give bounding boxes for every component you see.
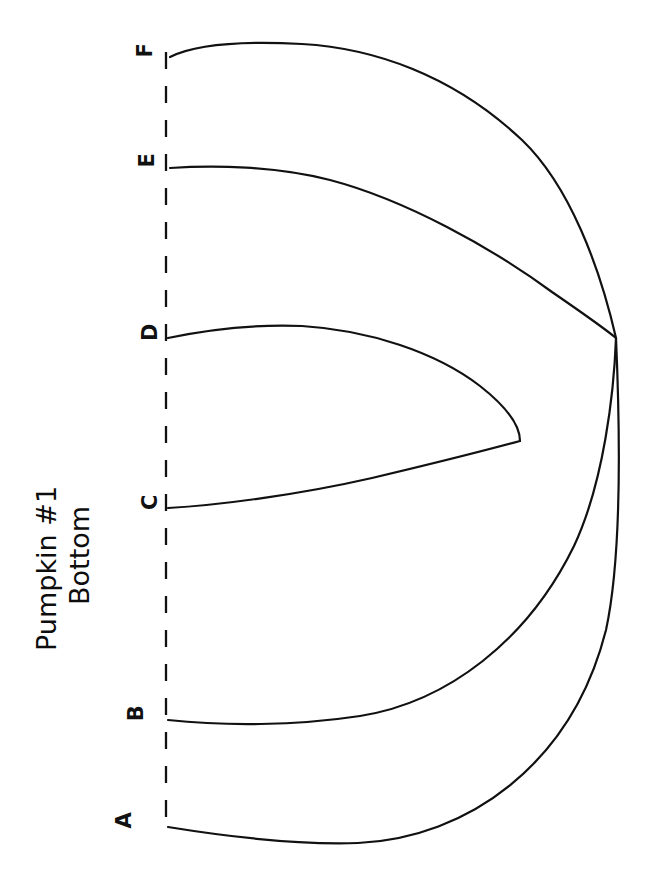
sketch-drawing-canvas (0, 0, 651, 877)
curve-d (168, 326, 520, 441)
point-label-c: C (138, 494, 162, 510)
title-line-secondary: Bottom (64, 351, 97, 651)
curve-a (168, 338, 619, 843)
curve-e (170, 167, 616, 338)
sketch-title: Pumpkin #1 Bottom (31, 351, 97, 651)
curve-group (168, 43, 619, 843)
sketch-page: Pumpkin #1 Bottom F E D C B A (0, 0, 651, 877)
curve-f (170, 43, 616, 338)
point-label-b: B (124, 705, 148, 722)
point-label-d: D (138, 323, 162, 341)
point-label-e: E (135, 153, 159, 168)
curve-c (168, 441, 520, 508)
curve-b (168, 338, 616, 724)
point-label-f: F (133, 43, 157, 58)
title-line-primary: Pumpkin #1 (31, 351, 64, 651)
point-label-a: A (112, 812, 136, 829)
